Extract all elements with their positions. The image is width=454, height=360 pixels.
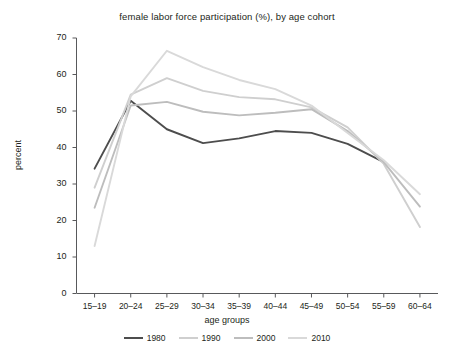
x-tick-label: 55–59	[364, 301, 404, 311]
legend-item-2010[interactable]: 2010	[288, 333, 330, 343]
series-line-2010	[95, 51, 420, 246]
legend-label: 2010	[311, 333, 330, 343]
y-tick-label: 70	[41, 32, 67, 42]
x-tick-label: 60–64	[400, 301, 440, 311]
chart-figure: female labor force participation (%), by…	[0, 0, 454, 360]
x-tick-label: 25–29	[147, 301, 187, 311]
x-tick-label: 45–49	[291, 301, 331, 311]
x-tick-label: 20–24	[111, 301, 151, 311]
y-tick-label: 10	[41, 251, 67, 261]
series-line-1980	[95, 101, 384, 169]
x-tick-label: 15–19	[75, 301, 115, 311]
legend-item-1980[interactable]: 1980	[124, 333, 166, 343]
y-tick-marks	[73, 38, 77, 294]
legend-label: 1980	[147, 333, 166, 343]
legend-swatch-icon	[234, 337, 253, 340]
legend-label: 1990	[202, 333, 221, 343]
legend-swatch-icon	[288, 337, 307, 340]
x-tick-label: 40–44	[255, 301, 295, 311]
y-tick-label: 50	[41, 105, 67, 115]
x-tick-marks	[95, 294, 420, 298]
x-tick-label: 35–39	[219, 301, 259, 311]
y-tick-label: 20	[41, 215, 67, 225]
legend-label: 2000	[257, 333, 276, 343]
legend-item-2000[interactable]: 2000	[234, 333, 276, 343]
series-line-1990	[95, 78, 420, 227]
y-tick-label: 40	[41, 142, 67, 152]
legend-swatch-icon	[124, 337, 143, 340]
x-tick-label: 30–34	[183, 301, 223, 311]
legend-item-1990[interactable]: 1990	[179, 333, 221, 343]
y-tick-label: 60	[41, 69, 67, 79]
y-tick-label: 30	[41, 178, 67, 188]
y-tick-label: 0	[41, 288, 67, 298]
data-series-group	[95, 51, 420, 246]
legend-swatch-icon	[179, 337, 198, 340]
chart-legend: 1980199020002010	[0, 333, 454, 343]
x-tick-label: 50–54	[328, 301, 368, 311]
